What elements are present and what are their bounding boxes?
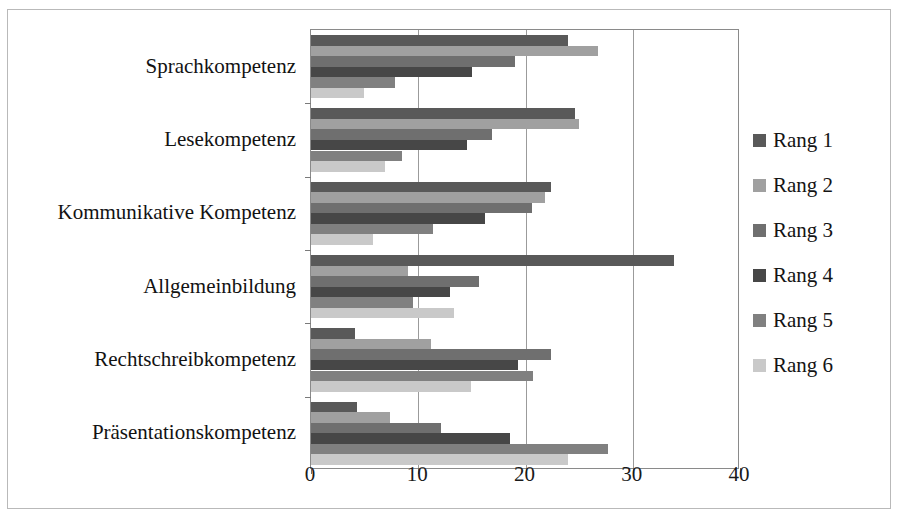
bar-row [311,35,738,46]
bar[interactable] [311,297,413,308]
bar[interactable] [311,234,373,245]
bar-row [311,371,738,382]
x-axis-tick-label: 40 [729,462,750,487]
legend-label: Rang 3 [773,218,833,243]
chart-frame: SprachkompetenzLesekompetenzKommunikativ… [7,9,891,509]
bar[interactable] [311,412,390,423]
bar-row [311,119,738,130]
legend-item[interactable]: Rang 1 [753,118,883,163]
bar-row [311,234,738,245]
bar[interactable] [311,371,533,382]
bar[interactable] [311,108,575,119]
chart-legend: Rang 1Rang 2Rang 3Rang 4Rang 5Rang 6 [753,118,883,388]
bar[interactable] [311,360,518,371]
bar-row [311,423,738,434]
bar-row [311,182,738,193]
bar-row [311,266,738,277]
bar-row [311,88,738,99]
bar[interactable] [311,46,598,57]
bar-row [311,308,738,319]
legend-item[interactable]: Rang 5 [753,298,883,343]
bar-group [311,323,738,396]
bar-row [311,77,738,88]
bar[interactable] [311,349,551,360]
bar-row [311,297,738,308]
bar-row [311,224,738,235]
category-tick [305,250,311,251]
bar-row [311,129,738,140]
category-tick [305,397,311,398]
bar-row [311,433,738,444]
bar-row [311,381,738,392]
bar[interactable] [311,287,450,298]
bar-row [311,140,738,151]
category-label: Lesekompetenz [8,127,296,152]
legend-label: Rang 1 [773,128,833,153]
bar-group [311,30,738,103]
legend-label: Rang 6 [773,353,833,378]
bar[interactable] [311,276,479,287]
bar[interactable] [311,381,471,392]
bar[interactable] [311,339,431,350]
bar[interactable] [311,444,608,455]
bar[interactable] [311,151,402,162]
bar-row [311,360,738,371]
legend-label: Rang 2 [773,173,833,198]
bar-row [311,108,738,119]
bar[interactable] [311,266,408,277]
legend-item[interactable]: Rang 6 [753,343,883,388]
bar[interactable] [311,328,355,339]
bar[interactable] [311,129,492,140]
bar[interactable] [311,77,395,88]
bar-row [311,255,738,266]
bar-group [311,177,738,250]
bar-row [311,276,738,287]
bar[interactable] [311,67,472,78]
bar-row [311,213,738,224]
bar-row [311,287,738,298]
category-label: Präsentationskompetenz [8,420,296,445]
legend-swatch-icon [753,224,766,237]
bar[interactable] [311,182,551,193]
bar[interactable] [311,402,357,413]
bar[interactable] [311,308,454,319]
bar-row [311,328,738,339]
legend-swatch-icon [753,134,766,147]
category-label: Rechtschreibkompetenz [8,347,296,372]
bar-row [311,349,738,360]
bar[interactable] [311,35,568,46]
bar-group [311,250,738,323]
category-tick [305,323,311,324]
bar[interactable] [311,255,674,266]
legend-item[interactable]: Rang 4 [753,253,883,298]
legend-item[interactable]: Rang 2 [753,163,883,208]
legend-swatch-icon [753,314,766,327]
legend-swatch-icon [753,269,766,282]
bar[interactable] [311,192,545,203]
bar-row [311,203,738,214]
bar-row [311,56,738,67]
legend-item[interactable]: Rang 3 [753,208,883,253]
category-label: Allgemeinbildung [8,273,296,298]
bar[interactable] [311,433,510,444]
bar[interactable] [311,161,385,172]
bar[interactable] [311,213,485,224]
category-tick [305,103,311,104]
bar-row [311,151,738,162]
bar[interactable] [311,224,433,235]
legend-label: Rang 5 [773,308,833,333]
bar[interactable] [311,140,467,151]
bar[interactable] [311,56,515,67]
category-tick [305,177,311,178]
bar[interactable] [311,88,364,99]
x-axis-tick-label: 30 [621,462,642,487]
bar-row [311,402,738,413]
legend-swatch-icon [753,179,766,192]
plot-area [310,29,739,469]
x-axis-tick-label: 10 [407,462,428,487]
bar[interactable] [311,203,532,214]
bar[interactable] [311,119,579,130]
x-axis-tick-label: 0 [305,462,316,487]
bar[interactable] [311,423,441,434]
bar-row [311,444,738,455]
